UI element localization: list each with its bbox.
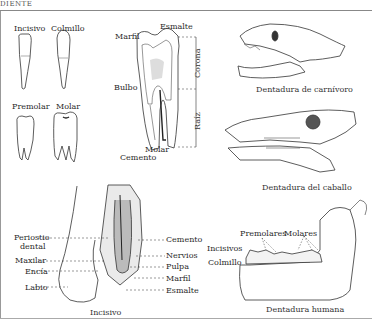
label-nervios: Nervios xyxy=(166,252,198,260)
label-colmillo: Colmillo xyxy=(51,25,85,33)
label-dental: dental xyxy=(20,243,46,251)
incisor-tooth-drawing xyxy=(19,34,31,89)
label-incisivo: Incisivo xyxy=(14,25,45,33)
label-periostio: Periostio xyxy=(14,234,50,242)
label-esmalte: Esmalte xyxy=(160,23,193,31)
label-cemento-incisor: Cemento xyxy=(166,236,202,244)
label-cemento: Cemento xyxy=(120,154,156,162)
label-premolares: Premolares xyxy=(240,230,286,238)
label-marfil-incisor: Marfil xyxy=(166,275,191,283)
label-maxilar: Maxilar xyxy=(15,257,46,265)
premolar-tooth-drawing xyxy=(17,116,34,160)
label-molar: Molar xyxy=(56,103,80,111)
incisor-section-drawing xyxy=(59,185,142,302)
caption-incisor: Incisivo xyxy=(90,309,121,317)
human-mandible-drawing xyxy=(240,200,367,300)
molar-tooth-drawing xyxy=(54,112,77,162)
carnivore-skull-drawing xyxy=(238,24,345,78)
caption-human: Dentadura humana xyxy=(266,306,344,314)
label-bulbo: Bulbo xyxy=(114,84,138,92)
label-molares: Molares xyxy=(284,230,317,238)
label-marfil: Marfil xyxy=(115,33,140,41)
label-raiz: Raíz xyxy=(193,112,202,130)
label-esmalte-incisor: Esmalte xyxy=(166,287,199,295)
label-encia: Encía xyxy=(25,268,48,276)
caption-horse: Dentadura del caballo xyxy=(262,184,352,192)
label-corona: Corona xyxy=(193,49,202,79)
label-labio: Labio xyxy=(25,284,48,292)
label-pulpa: Pulpa xyxy=(166,263,189,271)
label-premolar: Premolar xyxy=(12,103,50,111)
canine-tooth-drawing xyxy=(57,30,70,89)
label-incisivos: Incisivos xyxy=(207,245,242,253)
horse-skull-drawing xyxy=(225,110,356,172)
caption-carnivore: Dentadura de carnívoro xyxy=(256,86,353,94)
incisor-leader-lines xyxy=(32,238,165,290)
label-colmillo-human: Colmillo xyxy=(208,259,242,267)
molar-section-drawing xyxy=(137,28,179,150)
